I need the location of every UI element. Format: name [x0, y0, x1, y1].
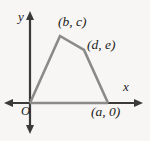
- x-axis-label: x: [123, 80, 129, 93]
- vertex-label-de: (d, e): [87, 38, 115, 52]
- y-axis-label: y: [18, 10, 24, 23]
- x-axis-right-arrowhead: [134, 99, 143, 107]
- vertex-label-bc: (b, c): [58, 15, 86, 29]
- origin-label: O: [21, 105, 30, 118]
- y-axis-bottom-arrowhead: [26, 125, 34, 134]
- vertex-label-a0: (a, 0): [91, 105, 120, 119]
- y-axis-top-arrowhead: [26, 11, 34, 20]
- geometry-figure: (b, c) (d, e) (a, 0) y x O: [0, 0, 150, 141]
- x-axis-left-arrowhead: [4, 99, 13, 107]
